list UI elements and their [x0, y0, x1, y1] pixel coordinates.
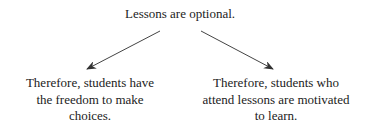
conclusion-left-node: Therefore, students have the freedom to …: [0, 75, 180, 125]
arrow-left: [87, 31, 160, 69]
conclusion-left-line-3: choices.: [0, 108, 180, 125]
conclusion-right-node: Therefore, students who attend lessons a…: [184, 75, 368, 125]
arrow-right: [201, 31, 273, 69]
conclusion-right-line-1: Therefore, students who: [184, 75, 368, 92]
conclusion-right-line-2: attend lessons are motivated: [184, 92, 368, 109]
conclusion-left-line-1: Therefore, students have: [0, 75, 180, 92]
conclusion-left-line-2: the freedom to make: [0, 92, 180, 109]
conclusion-right-line-3: to learn.: [184, 108, 368, 125]
